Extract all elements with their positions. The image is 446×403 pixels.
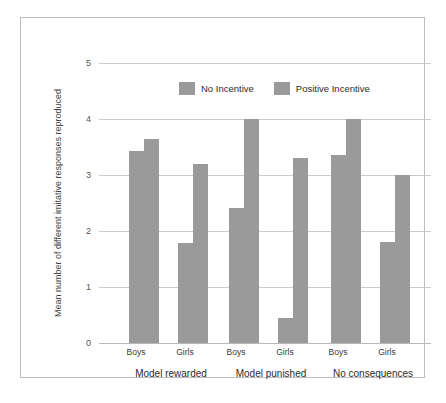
bar-model-punished-boys-positive-incentive (244, 119, 259, 343)
legend-entry-no-incentive: No Incentive (179, 82, 254, 95)
y-axis-title: Mean number of different imitative respo… (51, 63, 65, 343)
y-tick-label-1: 1 (86, 283, 91, 292)
x-tick-label-model-punished-boys: Boys (216, 348, 256, 357)
bar-no-consequences-boys-no-incentive (331, 155, 346, 343)
bar-model-rewarded-girls-positive-incentive (193, 164, 208, 343)
bar-no-consequences-boys-positive-incentive (346, 119, 361, 343)
y-tick-label-5: 5 (86, 59, 91, 68)
legend-entry-positive-incentive: Positive Incentive (274, 82, 370, 95)
gridline-5: 5 (99, 63, 431, 64)
plot-area: 5 4 3 2 1 0 (99, 63, 431, 343)
legend-swatch-positive-incentive (274, 82, 290, 95)
gridline-0-baseline: 0 (99, 343, 431, 344)
legend-label-positive-incentive: Positive Incentive (296, 84, 370, 94)
figure-bar-chart: Mean number of different imitative respo… (0, 0, 446, 403)
y-tick-label-4: 4 (86, 115, 91, 124)
y-tick-label-2: 2 (86, 227, 91, 236)
legend-label-no-incentive: No Incentive (201, 84, 254, 94)
bar-model-rewarded-boys-positive-incentive (144, 139, 159, 343)
y-tick-label-0: 0 (86, 339, 91, 348)
bar-model-rewarded-girls-no-incentive (178, 243, 193, 343)
gridline-4: 4 (99, 119, 431, 120)
bar-model-punished-girls-no-incentive (278, 318, 293, 343)
x-tick-label-model-rewarded-boys: Boys (116, 348, 156, 357)
x-tick-label-no-consequences-girls: Girls (367, 348, 407, 357)
bar-model-punished-girls-positive-incentive (293, 158, 308, 343)
y-tick-label-3: 3 (86, 171, 91, 180)
bar-no-consequences-girls-no-incentive (380, 242, 395, 343)
x-tick-label-model-rewarded-girls: Girls (165, 348, 205, 357)
chart-legend: No Incentive Positive Incentive (179, 82, 370, 95)
x-tick-label-no-consequences-boys: Boys (318, 348, 358, 357)
chart-frame: Mean number of different imitative respo… (20, 17, 425, 378)
legend-swatch-no-incentive (179, 82, 195, 95)
bar-model-punished-boys-no-incentive (229, 208, 244, 343)
x-group-label-no-consequences: No consequences (308, 369, 438, 379)
x-tick-label-model-punished-girls: Girls (265, 348, 305, 357)
bar-no-consequences-girls-positive-incentive (395, 175, 410, 343)
bar-model-rewarded-boys-no-incentive (129, 151, 144, 343)
